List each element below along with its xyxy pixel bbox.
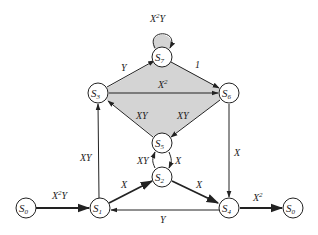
node-s3: S3 bbox=[88, 83, 108, 103]
svg-text:Y: Y bbox=[160, 214, 167, 225]
svg-text:X: X bbox=[195, 179, 203, 190]
svg-text:X2: X2 bbox=[252, 191, 263, 203]
svg-text:X2Y: X2Y bbox=[51, 189, 69, 201]
node-s2: S2 bbox=[152, 167, 172, 187]
edge-s2-s5: XY bbox=[136, 152, 155, 168]
svg-text:X: X bbox=[120, 179, 128, 190]
state-diagram: X2Y XY X XY X X Y X2 Y X2Y 1 X2 bbox=[0, 0, 318, 235]
svg-text:Y: Y bbox=[121, 62, 128, 73]
svg-text:X2Y: X2Y bbox=[149, 12, 167, 24]
node-s1: S1 bbox=[90, 198, 110, 218]
node-s7: S7 bbox=[152, 47, 172, 67]
svg-text:X: X bbox=[233, 147, 241, 158]
svg-text:XY: XY bbox=[79, 152, 93, 163]
node-s4: S4 bbox=[219, 198, 239, 218]
edge-s1-s3: XY bbox=[79, 104, 99, 198]
node-s5: S5 bbox=[152, 133, 172, 153]
edge-s2-s4: X bbox=[172, 179, 218, 203]
edge-s4-s1: Y bbox=[111, 210, 219, 225]
node-s0-end: S0 bbox=[283, 198, 303, 218]
svg-text:X: X bbox=[174, 155, 182, 166]
edge-s6-s4: X bbox=[229, 104, 241, 197]
edge-s5-s2: X bbox=[169, 152, 182, 168]
node-s6: S6 bbox=[219, 83, 239, 103]
edge-s0-s1: X2Y bbox=[36, 189, 89, 208]
svg-text:XY: XY bbox=[135, 110, 149, 121]
edge-s1-s2: X bbox=[109, 179, 152, 203]
node-s0-start: S0 bbox=[16, 198, 36, 218]
svg-text:XY: XY bbox=[176, 110, 190, 121]
svg-text:1: 1 bbox=[195, 59, 200, 70]
edge-s4-s0: X2 bbox=[240, 191, 282, 208]
svg-text:XY: XY bbox=[136, 155, 150, 166]
